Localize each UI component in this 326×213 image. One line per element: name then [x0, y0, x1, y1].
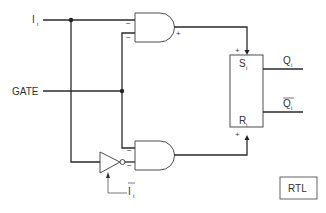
- reset-arrow-icon: [245, 135, 250, 140]
- gate-input-label: GATE: [12, 86, 39, 97]
- q-output-label: Q: [283, 55, 291, 66]
- set-label: S: [239, 58, 246, 69]
- set-input-sign: +: [235, 46, 240, 55]
- and-top-input-sign-2: −: [126, 33, 131, 42]
- input-i-label: I: [32, 14, 35, 25]
- logic-family-label: RTL: [288, 183, 307, 194]
- input-i-subscript: i: [37, 21, 38, 27]
- q-output-subscript: i: [291, 62, 292, 68]
- and-gate-bottom: − −: [127, 141, 175, 170]
- and-top-input-sign-1: −: [126, 19, 131, 28]
- set-subscript: i: [246, 65, 247, 71]
- and-bottom-input-sign-2: −: [127, 161, 132, 170]
- reset-input-sign: +: [235, 130, 240, 139]
- qbar-output-subscript: i: [291, 105, 292, 111]
- gate-wire: [43, 33, 135, 148]
- flip-flop: S i R i: [230, 55, 263, 128]
- reset-wire: [174, 137, 247, 155]
- and-bottom-input-sign-1: −: [127, 146, 132, 155]
- and-top-output-sign: +: [176, 29, 181, 38]
- inversion-bubble-icon: [120, 160, 125, 165]
- gated-latch-diagram: − − + + − − + S i R i Q i Q i I i: [0, 0, 326, 213]
- reset-subscript: i: [246, 122, 247, 128]
- logic-family-badge: RTL: [280, 177, 317, 199]
- annotation-arrow-icon: [106, 172, 110, 178]
- qbar-output-label: Q: [283, 98, 291, 109]
- and-gate-top: − − +: [126, 13, 181, 42]
- set-arrow-icon: [245, 50, 250, 55]
- inverted-i-subscript: i: [133, 193, 134, 199]
- inverted-i-label: I: [128, 186, 131, 197]
